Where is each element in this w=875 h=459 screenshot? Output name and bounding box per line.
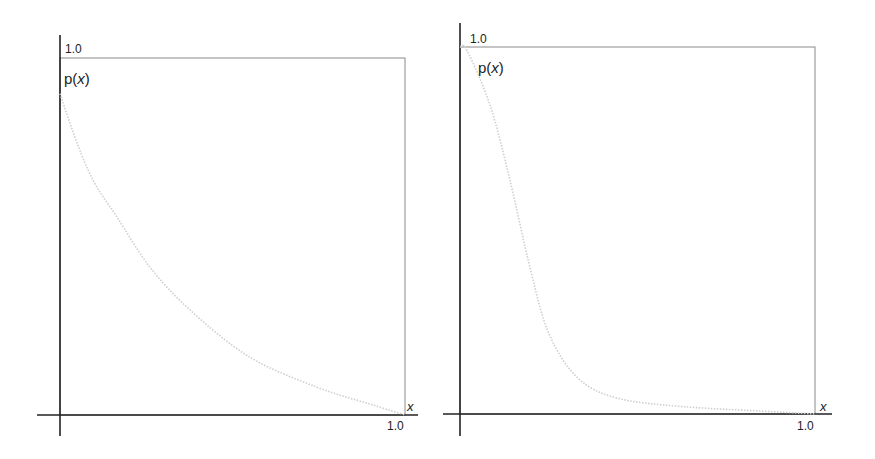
left-plot-frame — [60, 58, 405, 415]
left-curve — [60, 94, 405, 415]
left-x-axis-label: x — [406, 399, 414, 414]
right-x-tick-label: 1.0 — [797, 419, 814, 433]
left-chart: 1.0 p(x) x 1.0 — [37, 35, 418, 436]
right-y-tick-label: 1.0 — [470, 32, 487, 46]
left-y-axis-label: p(x) — [64, 70, 90, 87]
right-curve — [460, 45, 815, 414]
left-y-tick-label: 1.0 — [65, 42, 82, 56]
right-plot-frame — [460, 47, 815, 414]
right-x-axis-label: x — [819, 399, 827, 414]
charts-canvas: 1.0 p(x) x 1.0 1.0 p(x) x 1.0 — [0, 0, 875, 459]
left-x-tick-label: 1.0 — [387, 419, 404, 433]
right-chart: 1.0 p(x) x 1.0 — [443, 23, 832, 436]
right-y-axis-label: p(x) — [478, 59, 504, 76]
